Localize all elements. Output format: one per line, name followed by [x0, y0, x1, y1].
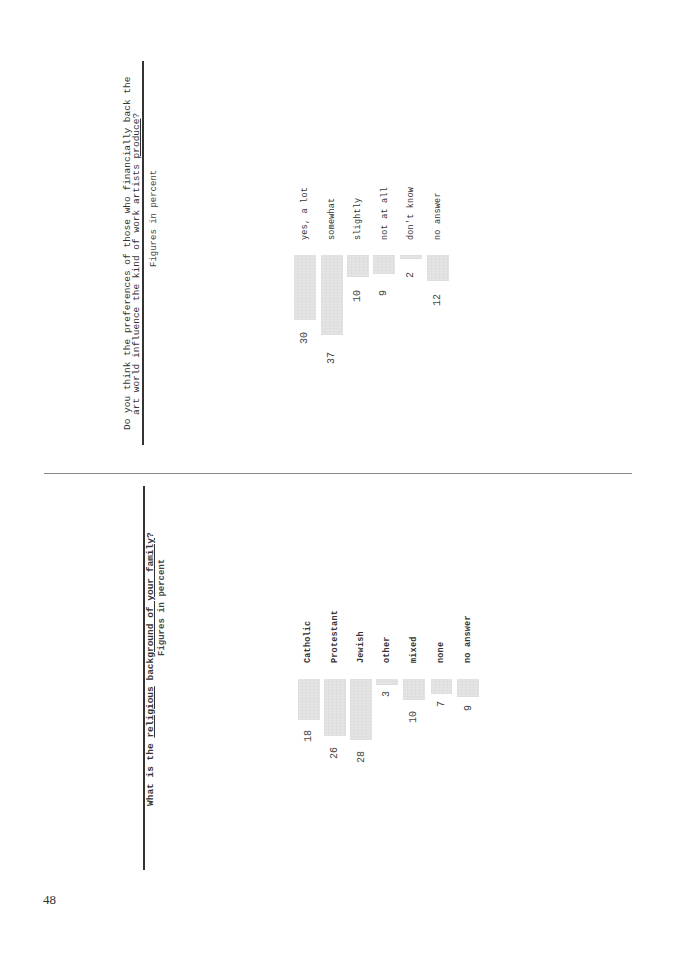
page-divider [44, 473, 632, 474]
bottom-label-catholic: Catholic [303, 621, 313, 663]
bottom-label-protestant: Protestant [330, 610, 340, 663]
page-number: 48 [43, 892, 56, 908]
top-chart-rule [142, 61, 144, 445]
top-chart-question-line2: art world influence the kind of work art… [132, 113, 141, 415]
top-bar-not-at-all [373, 255, 395, 274]
bottom-bar-mixed [403, 679, 425, 700]
top-value-no-answer: 12 [432, 294, 443, 306]
bottom-value-no-answer: 9 [463, 705, 474, 711]
top-label-yes-a-lot: yes, a lot [300, 187, 310, 240]
bottom-label-jewish: Jewish [356, 631, 366, 663]
top-value-somewhat: 37 [326, 352, 337, 364]
top-label-slightly: slightly [353, 198, 363, 240]
bottom-bar-jewish [350, 679, 372, 740]
bottom-bar-none [431, 679, 452, 694]
bottom-value-other: 3 [381, 691, 392, 697]
bottom-bar-other [376, 679, 398, 685]
bottom-label-no-answer: no answer [463, 615, 473, 663]
top-label-no-answer: no answer [433, 192, 443, 240]
top-bar-no-answer [427, 255, 449, 281]
bottom-label-mixed: mixed [409, 636, 419, 663]
top-label-not-at-all: not at all [380, 187, 390, 240]
top-bar-slightly [347, 255, 369, 277]
bottom-chart-question: What is the religious background of your… [146, 532, 155, 806]
top-value-yes-a-lot: 30 [299, 332, 310, 344]
top-value-dont-know: 2 [405, 272, 416, 278]
bottom-bar-protestant [324, 679, 346, 736]
top-bar-somewhat [321, 255, 343, 335]
top-value-slightly: 10 [352, 290, 363, 302]
bottom-value-mixed: 10 [408, 711, 419, 723]
bottom-value-protestant: 26 [329, 747, 340, 759]
top-label-somewhat: somewhat [327, 198, 337, 240]
bottom-chart-subtitle: Figures in percent [157, 559, 167, 656]
bottom-value-jewish: 28 [356, 751, 367, 763]
bottom-value-catholic: 18 [303, 730, 314, 742]
top-bar-dont-know [400, 255, 422, 259]
top-bar-yes-a-lot [294, 255, 316, 320]
top-chart-subtitle: Figures in percent [149, 170, 159, 267]
bottom-label-none: none [436, 642, 446, 663]
bottom-bar-no-answer [457, 679, 479, 697]
bottom-bar-catholic [298, 679, 320, 720]
top-value-not-at-all: 9 [378, 290, 389, 296]
bottom-label-other: other [382, 636, 392, 663]
bottom-value-none: 7 [436, 701, 447, 707]
top-label-dont-know: don't know [406, 187, 416, 240]
